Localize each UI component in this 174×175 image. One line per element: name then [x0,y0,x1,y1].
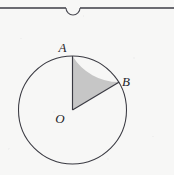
label-point-a: A [58,40,67,55]
shaded-sector-aob [73,56,120,110]
divider-arc-notch-icon [66,8,80,15]
label-point-b: B [122,74,130,89]
top-divider-group [0,8,174,15]
figure-canvas: A B O [0,0,174,175]
geometry-figure: A B O [0,0,174,175]
label-point-o: O [55,111,65,126]
